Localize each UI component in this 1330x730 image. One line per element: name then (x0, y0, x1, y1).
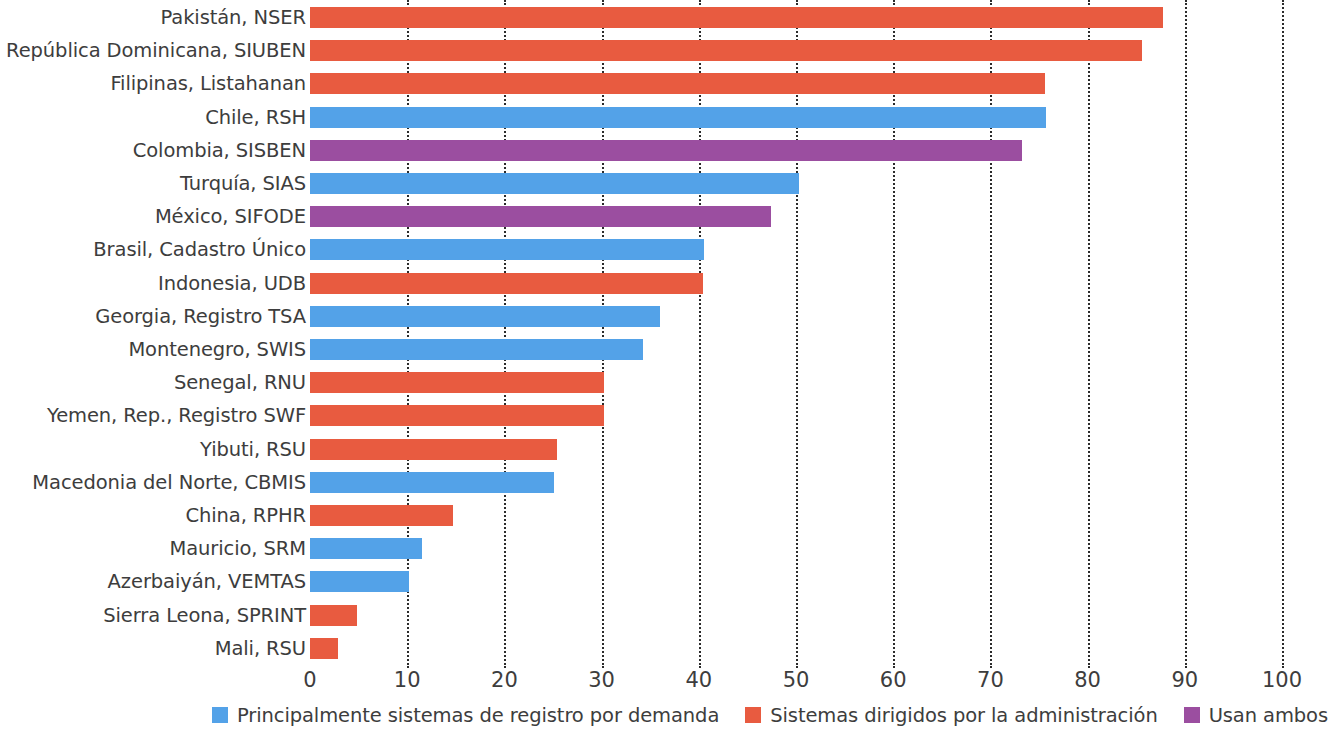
bar-row: Mali, RSU (0, 632, 1330, 665)
bar-category-label: Mauricio, SRM (170, 532, 307, 565)
bar (310, 571, 409, 592)
bar-category-label: Brasil, Cadastro Único (93, 233, 306, 266)
legend-label: Usan ambos (1209, 704, 1328, 727)
bar-category-label: Chile, RSH (205, 101, 306, 134)
bar-row: México, SIFODE (0, 200, 1330, 233)
bar-category-label: Montenegro, SWIS (128, 333, 306, 366)
bar-row: Brasil, Cadastro Único (0, 233, 1330, 266)
x-axis-tick-label: 40 (685, 668, 712, 692)
plot-area: Pakistán, NSERRepública Dominicana, SIUB… (0, 0, 1330, 668)
chart-legend: Principalmente sistemas de registro por … (0, 700, 1330, 730)
legend-label: Principalmente sistemas de registro por … (237, 704, 719, 727)
bar-category-label: Macedonia del Norte, CBMIS (32, 466, 306, 499)
x-axis: 0102030405060708090100 (0, 668, 1330, 698)
bar (310, 439, 557, 460)
bar-row: República Dominicana, SIUBEN (0, 34, 1330, 67)
bar-row: Mauricio, SRM (0, 532, 1330, 565)
bar-row: Azerbaiyán, VEMTAS (0, 565, 1330, 598)
bar-row: Colombia, SISBEN (0, 134, 1330, 167)
bar-category-label: Turquía, SIAS (180, 167, 306, 200)
bar (310, 472, 554, 493)
legend-swatch-icon (1184, 707, 1200, 723)
x-axis-tick-label: 90 (1171, 668, 1198, 692)
bar (310, 239, 704, 260)
bar (310, 140, 1022, 161)
bar (310, 7, 1163, 28)
bar-category-label: Colombia, SISBEN (133, 134, 306, 167)
bar (310, 405, 604, 426)
bar-row: Filipinas, Listahanan (0, 67, 1330, 100)
bar-row: Macedonia del Norte, CBMIS (0, 466, 1330, 499)
bar-row: Pakistán, NSER (0, 1, 1330, 34)
bar-row: Yibuti, RSU (0, 433, 1330, 466)
bar-category-label: Georgia, Registro TSA (95, 300, 306, 333)
bar-category-label: Azerbaiyán, VEMTAS (108, 565, 306, 598)
x-axis-tick-label: 50 (783, 668, 810, 692)
bar-row: Montenegro, SWIS (0, 333, 1330, 366)
x-axis-tick-label: 0 (303, 668, 316, 692)
bar-category-label: Senegal, RNU (174, 366, 306, 399)
bar-category-label: Sierra Leona, SPRINT (103, 599, 306, 632)
bar-row: Sierra Leona, SPRINT (0, 599, 1330, 632)
legend-swatch-icon (212, 707, 228, 723)
bar-row: Yemen, Rep., Registro SWF (0, 399, 1330, 432)
x-axis-tick-label: 10 (394, 668, 421, 692)
bar (310, 339, 643, 360)
bar (310, 107, 1046, 128)
bar-row: Senegal, RNU (0, 366, 1330, 399)
legend-item[interactable]: Sistemas dirigidos por la administración (745, 704, 1157, 727)
bar-category-label: República Dominicana, SIUBEN (6, 34, 306, 67)
x-axis-tick-label: 80 (1074, 668, 1101, 692)
bar-row: Turquía, SIAS (0, 167, 1330, 200)
bar (310, 538, 422, 559)
legend-label: Sistemas dirigidos por la administración (770, 704, 1157, 727)
bar-row: Indonesia, UDB (0, 267, 1330, 300)
legend-swatch-icon (745, 707, 761, 723)
x-axis-tick-label: 20 (491, 668, 518, 692)
legend-item[interactable]: Usan ambos (1184, 704, 1328, 727)
bar-category-label: Yibuti, RSU (200, 433, 306, 466)
x-axis-tick-label: 70 (977, 668, 1004, 692)
bar (310, 505, 453, 526)
bar (310, 173, 799, 194)
bar (310, 605, 357, 626)
bar-category-label: Yemen, Rep., Registro SWF (47, 399, 306, 432)
bar (310, 40, 1142, 61)
bar-row: China, RPHR (0, 499, 1330, 532)
bar-category-label: Pakistán, NSER (161, 1, 307, 34)
bar-category-label: Mali, RSU (215, 632, 306, 665)
bar-category-label: Filipinas, Listahanan (110, 67, 306, 100)
x-axis-tick-label: 60 (880, 668, 907, 692)
bar (310, 306, 660, 327)
bar (310, 372, 604, 393)
bar-category-label: China, RPHR (185, 499, 306, 532)
x-axis-tick-label: 30 (588, 668, 615, 692)
legend-item[interactable]: Principalmente sistemas de registro por … (212, 704, 719, 727)
bar-chart: Pakistán, NSERRepública Dominicana, SIUB… (0, 0, 1330, 730)
bar-row: Chile, RSH (0, 101, 1330, 134)
bar-category-label: México, SIFODE (155, 200, 306, 233)
bar (310, 206, 771, 227)
bar-category-label: Indonesia, UDB (158, 267, 306, 300)
bar-row: Georgia, Registro TSA (0, 300, 1330, 333)
bar (310, 73, 1045, 94)
bar (310, 273, 703, 294)
bar (310, 638, 338, 659)
x-axis-tick-label: 100 (1262, 668, 1302, 692)
